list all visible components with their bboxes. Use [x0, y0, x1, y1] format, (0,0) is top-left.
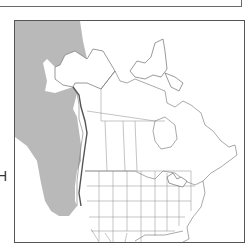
range-area [15, 21, 87, 216]
arctic-islands [130, 39, 183, 91]
us-east-gulf-coast [135, 181, 205, 242]
edge-letter: H [0, 168, 7, 184]
hudson-bay [153, 117, 177, 149]
range-map [14, 20, 245, 243]
map-canvas [15, 21, 244, 242]
top-caption-box [0, 0, 242, 7]
great-lakes [167, 173, 187, 187]
